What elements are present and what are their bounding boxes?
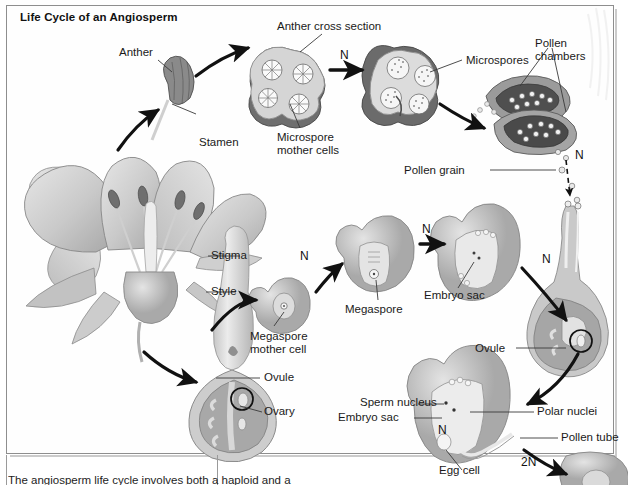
label-egg-cell: Egg cell (439, 464, 480, 477)
megaspore-illustration (336, 216, 414, 292)
ploidy-mark-n3: N (300, 249, 309, 263)
embryo-sac-illustration-upper (430, 204, 520, 301)
label-microspore-mother-cells: Microspore mother cells (277, 131, 339, 156)
figure-caption: The angiosperm life cycle involves both … (8, 474, 308, 485)
label-anther: Anther (119, 46, 153, 59)
ploidy-mark-n1: N (340, 48, 349, 62)
label-ovary: Ovary (264, 405, 295, 418)
anther-illustration (152, 56, 194, 140)
label-megaspore-mother-cell: Megaspore mother cell (250, 330, 308, 355)
zygote-illustration-cutoff (560, 452, 628, 485)
anther-cross-section-1 (249, 47, 325, 128)
label-style: Style (211, 285, 237, 298)
label-pollen-chambers: Pollen chambers (535, 37, 586, 62)
ploidy-mark-n2: N (575, 148, 584, 162)
ploidy-mark-n4: N (422, 222, 431, 236)
label-sperm-nucleus: Sperm nucleus (360, 396, 437, 409)
label-microspores: Microspores (466, 54, 529, 67)
label-megaspore: Megaspore (345, 303, 403, 316)
label-embryo-sac-lower: Embryo sac (338, 411, 399, 424)
figure-canvas: Life Cycle of an Angiosperm (0, 0, 628, 485)
label-stamen: Stamen (199, 136, 239, 149)
polar-nuclei-dot (452, 408, 455, 411)
ploidy-mark-n5: N (542, 252, 551, 266)
label-anther-cross-section: Anther cross section (277, 20, 381, 33)
diagram-artwork (0, 0, 628, 485)
label-pollen-tube: Pollen tube (561, 431, 619, 444)
label-ovule-right: Ovule (475, 342, 505, 355)
anther-cross-section-2 (362, 46, 439, 126)
label-stigma: Stigma (211, 249, 247, 262)
label-embryo-sac-upper: Embryo sac (424, 289, 485, 302)
label-ovule-left: Ovule (264, 371, 294, 384)
ploidy-mark-n6: N (438, 423, 447, 437)
label-pollen-grain: Pollen grain (404, 164, 465, 177)
ploidy-mark-2n: 2N (521, 455, 536, 469)
megaspore-mother-cell-illustration (249, 278, 310, 334)
sperm-nucleus-dot (444, 401, 447, 404)
label-polar-nuclei: Polar nuclei (537, 405, 597, 418)
